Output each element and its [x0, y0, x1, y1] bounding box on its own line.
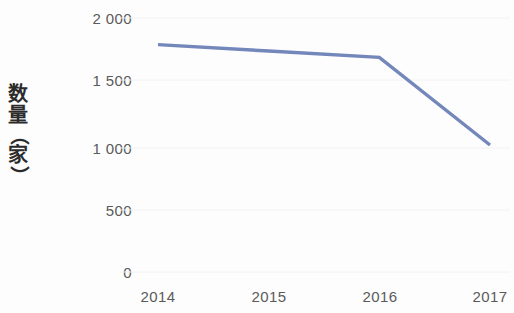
line-chart: 数 量 （ 家 ） 2 000 1 500 1 000 500 0 2014 2…: [0, 0, 514, 313]
x-axis-tick-label: 2015: [229, 288, 309, 305]
x-axis-tick-label: 2016: [340, 288, 420, 305]
x-axis-tick-label: 2014: [118, 288, 198, 305]
x-axis-tick-label: 2017: [450, 288, 514, 305]
x-axis-tick-labels: 2014 2015 2016 2017: [0, 0, 514, 313]
